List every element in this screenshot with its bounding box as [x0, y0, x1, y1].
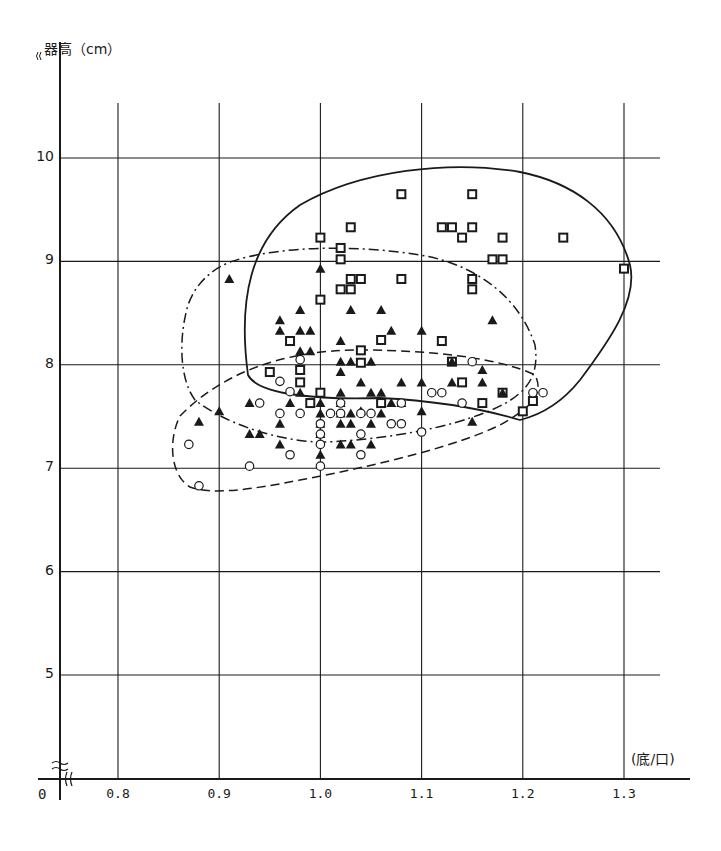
x-tick-label: 1.2	[503, 786, 543, 801]
triangle-marker	[336, 419, 346, 428]
triangle-marker	[336, 357, 346, 366]
circle-marker	[438, 389, 446, 397]
triangle-marker	[285, 398, 295, 407]
circle-marker	[336, 399, 344, 407]
x-tick-label: 0.8	[98, 786, 138, 801]
square-marker	[488, 255, 496, 263]
triangle-marker	[346, 419, 356, 428]
y-tick-label: 8	[28, 355, 54, 371]
square-marker	[458, 378, 466, 386]
circle-marker	[529, 389, 537, 397]
triangle-marker	[417, 377, 427, 386]
circle-marker	[397, 399, 405, 407]
circle-marker	[286, 451, 294, 459]
square-marker	[438, 337, 446, 345]
y-axis-label: 器高（cm）	[44, 38, 121, 58]
square-marker	[468, 190, 476, 198]
circle-marker	[539, 389, 547, 397]
triangle-marker	[386, 326, 396, 335]
triangle-marker	[315, 264, 325, 273]
triangle-marker	[224, 274, 234, 283]
circle-marker	[417, 428, 425, 436]
x-tick-label: 1.3	[604, 786, 644, 801]
circle-marker	[296, 355, 304, 363]
square-marker	[438, 223, 446, 231]
circle-marker	[276, 377, 284, 385]
triangle-marker	[275, 315, 285, 324]
circle-marker	[316, 462, 324, 470]
square-marker	[499, 255, 507, 263]
square-marker	[468, 285, 476, 293]
triangle-marker	[194, 417, 204, 426]
square-marker	[316, 296, 324, 304]
triangle-marker	[366, 357, 376, 366]
triangle-marker	[417, 326, 427, 335]
y-tick-label: 7	[28, 458, 54, 474]
square-marker	[559, 234, 567, 242]
circle-marker	[468, 357, 476, 365]
circle-marker	[276, 409, 284, 417]
scatter-chart: 器高（cm） (底/口) 0 5 6 7 8 9 10 0.8 0.9 1.0 …	[0, 0, 721, 851]
square-marker	[448, 223, 456, 231]
square-marker	[397, 190, 405, 198]
triangle-marker	[346, 408, 356, 417]
circle-marker	[316, 420, 324, 428]
square-marker	[337, 244, 345, 252]
circle-marker	[286, 387, 294, 395]
triangle-marker	[366, 388, 376, 397]
triangle-marker	[417, 406, 427, 415]
triangle-marker	[295, 346, 305, 355]
square-marker	[347, 275, 355, 283]
plot-area	[0, 0, 721, 851]
triangle-marker	[346, 439, 356, 448]
square-marker	[377, 336, 385, 344]
triangle-marker	[295, 326, 305, 335]
square-marker	[397, 275, 405, 283]
circle-marker	[336, 409, 344, 417]
square-marker	[357, 359, 365, 367]
circle-marker	[255, 399, 263, 407]
triangle-marker	[477, 377, 487, 386]
circle-marker	[458, 399, 466, 407]
triangle-marker	[487, 315, 497, 324]
triangle-marker	[295, 305, 305, 314]
square-marker	[347, 285, 355, 293]
triangle-marker	[356, 377, 366, 386]
y-tick-label: 6	[28, 562, 54, 578]
circle-marker	[387, 420, 395, 428]
circle-marker	[326, 409, 334, 417]
square-marker	[337, 255, 345, 263]
triangle-marker	[275, 326, 285, 335]
square-marker	[529, 397, 537, 405]
circle-marker	[397, 420, 405, 428]
x-tick-label: 0.9	[199, 786, 239, 801]
circle-marker	[316, 430, 324, 438]
triangle-marker	[376, 408, 386, 417]
square-marker	[478, 399, 486, 407]
square-marker	[357, 275, 365, 283]
triangle-marker	[447, 377, 457, 386]
circle-marker	[428, 389, 436, 397]
triangle-marker	[336, 367, 346, 376]
triangle-marker	[305, 346, 315, 355]
triangle-marker	[396, 377, 406, 386]
triangle-marker	[315, 450, 325, 459]
square-marker	[296, 366, 304, 374]
circle-marker	[316, 440, 324, 448]
square-marker	[337, 285, 345, 293]
triangle-marker	[245, 429, 255, 438]
triangle-marker	[275, 419, 285, 428]
triangle-marker	[315, 398, 325, 407]
circle-marker	[296, 409, 304, 417]
circle-marker	[185, 440, 193, 448]
triangle-marker	[376, 388, 386, 397]
circle-marker	[357, 409, 365, 417]
square-marker	[316, 389, 324, 397]
y-tick-label: 10	[28, 148, 54, 164]
triangle-marker	[315, 408, 325, 417]
triangle-marker	[295, 388, 305, 397]
circle-marker	[357, 451, 365, 459]
triangle-marker	[336, 388, 346, 397]
origin-label: 0	[38, 786, 46, 802]
y-tick-label: 9	[28, 251, 54, 267]
